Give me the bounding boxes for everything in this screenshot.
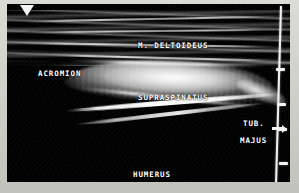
fascial-line [47, 54, 285, 62]
fascial-line [21, 15, 283, 22]
label-deltoid: M. DELTOIDEUS [138, 41, 208, 50]
label-majus: MAJUS [240, 136, 267, 145]
depth-scale-tick [279, 162, 288, 165]
depth-scale-tick [276, 68, 285, 71]
depth-scale-tick [277, 103, 286, 106]
deltoid-muscle-texture [7, 10, 290, 66]
acromion-acoustic-shadow [7, 62, 81, 182]
label-acromion: ACROMION [38, 69, 81, 78]
humeral-cortex-line-second [71, 101, 266, 127]
apex-marker-icon [20, 5, 34, 16]
supraspinatus-tendon-core [103, 63, 254, 94]
label-supraspinatus: SUPRASPINATUS [138, 93, 208, 102]
ultrasound-figure: M. DELTOIDEUS ACROMION SUPRASPINATUS TUB… [0, 0, 299, 193]
label-humerus: HUMERUS [133, 170, 171, 179]
depth-scale-tick [278, 128, 287, 131]
depth-scale-line [275, 6, 282, 182]
label-tuberculum: TUB. [243, 119, 265, 128]
ultrasound-scan-area: M. DELTOIDEUS ACROMION SUPRASPINATUS TUB… [7, 4, 290, 182]
fascial-line [31, 29, 283, 34]
bursal-margin-arc [67, 59, 267, 68]
